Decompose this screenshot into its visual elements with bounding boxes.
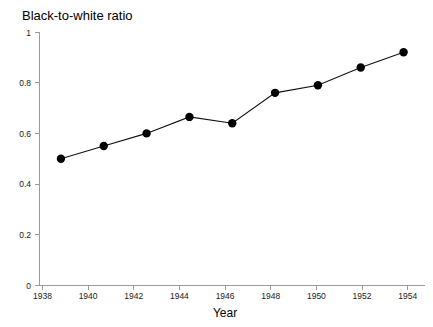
data-point [314, 81, 322, 89]
data-series-markers [57, 48, 408, 163]
x-tick-label-1948: 1948 [261, 291, 280, 301]
x-tick-label-1942: 1942 [124, 291, 143, 301]
x-tick-label-1946: 1946 [216, 291, 235, 301]
data-point [142, 129, 150, 137]
data-point [57, 155, 65, 163]
chart-screenshot: Black-to-white ratio 1 0.8 0.6 0.4 0.2 0 [0, 0, 433, 327]
x-tick-label-1938: 1938 [33, 291, 52, 301]
data-point [357, 63, 365, 71]
data-point [271, 89, 279, 97]
y-tick-label-0: 0 [26, 281, 31, 291]
x-axis-title: Year [213, 306, 237, 320]
x-tick-label-1954: 1954 [398, 291, 417, 301]
x-tick-label-1940: 1940 [79, 291, 98, 301]
data-point [228, 119, 236, 127]
y-tick-label-0-4: 0.4 [19, 179, 31, 189]
x-tick-label-1950: 1950 [307, 291, 326, 301]
y-tick-label-0-2: 0.2 [19, 230, 31, 240]
data-series-line [61, 52, 404, 158]
x-axis-ticks [43, 286, 408, 291]
line-chart-plot: 1 0.8 0.6 0.4 0.2 0 1938 1940 1942 1944 … [0, 0, 433, 327]
y-axis-ticks [35, 33, 40, 286]
data-point [100, 142, 108, 150]
data-point [185, 113, 193, 121]
y-tick-label-0-6: 0.6 [19, 129, 31, 139]
y-tick-label-1: 1 [26, 28, 31, 38]
x-tick-label-1944: 1944 [170, 291, 189, 301]
x-tick-label-1952: 1952 [353, 291, 372, 301]
y-tick-label-0-8: 0.8 [19, 78, 31, 88]
data-point [399, 48, 407, 56]
